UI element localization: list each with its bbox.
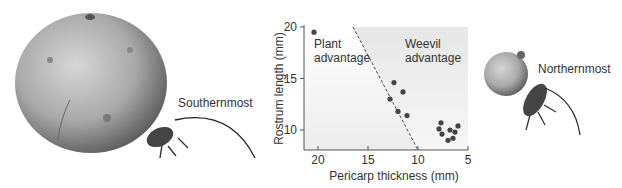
data-point [400, 89, 405, 94]
southernmost-label: Southernmost [178, 96, 253, 110]
southern-fruit-image [15, 13, 167, 153]
data-point [311, 30, 316, 35]
data-point [438, 120, 443, 125]
x-axis-label: Pericarp thickness (mm) [329, 169, 458, 183]
y-axis-label: Rostrum length (mm) [272, 32, 286, 145]
data-point [450, 136, 455, 141]
data-point [436, 126, 441, 131]
plant-advantage-label: Plant [314, 37, 342, 51]
data-point [395, 109, 400, 114]
northern-weevil-image [518, 80, 580, 135]
weevil-advantage-label: Weevil [405, 37, 441, 51]
northern-fruit-image [484, 51, 528, 96]
x-tick-label: 5 [465, 153, 472, 167]
weevil-advantage-label: advantage [405, 51, 461, 65]
scatter-chart: 1015202015105Pericarp thickness (mm)Rost… [270, 0, 480, 188]
data-point [439, 132, 444, 137]
data-point [452, 129, 457, 134]
data-point [455, 123, 460, 128]
data-point [391, 80, 396, 85]
data-point [387, 97, 392, 102]
data-point [445, 138, 450, 143]
northernmost-label: Northernmost [538, 62, 611, 76]
data-point [447, 127, 452, 132]
plant-advantage-label: advantage [314, 51, 370, 65]
x-tick-label: 15 [361, 153, 375, 167]
data-point [404, 113, 409, 118]
southern-weevil-image [144, 118, 255, 158]
x-tick-label: 10 [411, 153, 425, 167]
x-tick-label: 20 [311, 153, 325, 167]
y-tick-label: 20 [284, 20, 298, 34]
